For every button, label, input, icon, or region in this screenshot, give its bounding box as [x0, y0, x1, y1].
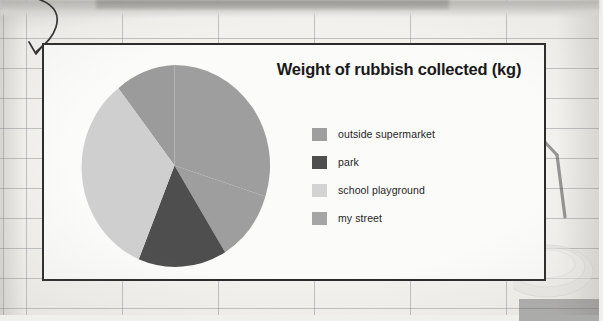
legend-item-outside-supermarket[interactable]: outside supermarket: [312, 120, 527, 148]
chart-title: Weight of rubbish collected (kg): [262, 60, 536, 78]
pie-chart: [77, 63, 272, 268]
chart-legend: outside supermarket park school playgrou…: [312, 120, 527, 232]
photo-top-edge-shadow: [96, 0, 449, 9]
pie-chart-svg: [77, 63, 272, 268]
chart-panel-inner: Weight of rubbish collected (kg): [44, 45, 544, 279]
legend-swatch-school-playground: [312, 184, 327, 197]
legend-label-park: park: [338, 156, 359, 168]
legend-item-school-playground[interactable]: school playground: [312, 176, 527, 204]
legend-swatch-my-street: [312, 212, 327, 225]
legend-label-my-street: my street: [338, 212, 382, 224]
legend-label-school-playground: school playground: [338, 184, 425, 196]
chart-panel: Weight of rubbish collected (kg): [42, 43, 546, 281]
legend-item-park[interactable]: park: [312, 148, 527, 176]
legend-item-my-street[interactable]: my street: [312, 204, 527, 232]
legend-swatch-park: [312, 156, 327, 169]
legend-swatch-outside-supermarket: [312, 128, 327, 141]
legend-label-outside-supermarket: outside supermarket: [338, 128, 435, 140]
